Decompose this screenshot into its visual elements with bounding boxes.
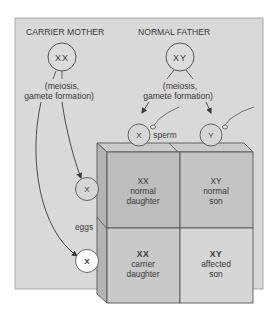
mother-meiosis-label-1: (meiosis,	[45, 81, 79, 91]
sperm-label: sperm	[153, 130, 176, 140]
father-genotype: XY	[173, 53, 187, 63]
cell-tl-line1: normal	[130, 186, 156, 196]
egg-carrier-chromosome: X	[84, 257, 90, 266]
sperm-y-chromosome: Y	[208, 131, 214, 140]
cell-tr-line1: normal	[203, 186, 229, 196]
mother-label: CARRIER MOTHER	[26, 27, 104, 37]
father-meiosis-label-2: gamete formation)	[143, 91, 213, 101]
cell-br-line2: son	[209, 269, 223, 279]
cell-tr-line2: son	[209, 196, 223, 206]
cell-bl-line2: daughter	[126, 269, 159, 279]
cell-br-genotype: XY	[210, 249, 222, 259]
punnett-square: XX normal daughter XY normal son XX carr…	[97, 143, 253, 303]
cell-bl-genotype: XX	[137, 249, 149, 259]
cell-br-line1: affected	[201, 259, 231, 269]
cell-tl-line2: daughter	[126, 196, 159, 206]
father-meiosis-label-1: (meiosis,	[163, 81, 197, 91]
egg-normal: X	[76, 178, 99, 201]
egg-carrier: X	[76, 250, 99, 273]
mother-meiosis-label-2: gamete formation)	[24, 91, 94, 101]
cell-bl-line1: carrier	[131, 259, 155, 269]
x-linked-inheritance-diagram: CARRIER MOTHER NORMAL FATHER XX XY (meio…	[0, 0, 277, 323]
egg-normal-chromosome: X	[84, 185, 90, 194]
father-cell: XY	[166, 43, 194, 71]
sperm-x-chromosome: X	[136, 131, 142, 140]
mother-cell: XX	[48, 43, 76, 71]
eggs-label: eggs	[75, 222, 93, 232]
box-top-face	[97, 143, 253, 152]
father-label: NORMAL FATHER	[138, 27, 210, 37]
cell-tr-genotype: XY	[210, 176, 222, 186]
mother-genotype: XX	[55, 53, 69, 63]
cell-tl-genotype: XX	[137, 176, 149, 186]
